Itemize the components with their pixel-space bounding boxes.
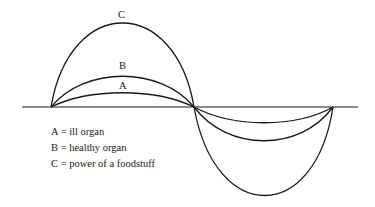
legend-item-b: B = healthy organ xyxy=(51,140,155,156)
curve-label-c: C xyxy=(118,9,125,20)
wave-diagram: C B A xyxy=(0,0,375,207)
curve-label-a: A xyxy=(119,80,127,91)
legend-item-a: A = ill organ xyxy=(51,124,155,140)
legend-item-c: C = power of a foodstuff xyxy=(51,156,155,172)
legend: A = ill organ B = healthy organ C = powe… xyxy=(51,124,155,172)
curve-label-b: B xyxy=(119,60,126,71)
